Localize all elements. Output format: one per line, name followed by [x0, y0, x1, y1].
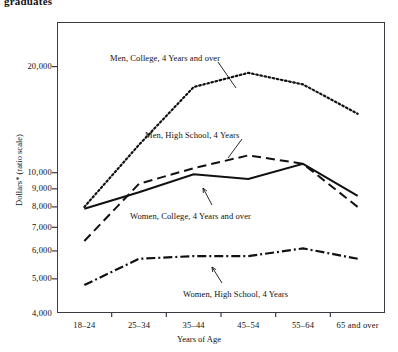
series-annotation-label: Men, High School, 4 Years	[145, 130, 239, 140]
annotation-leader-line	[228, 139, 242, 158]
series-line	[84, 155, 357, 241]
y-tick-label: 7,000	[0, 222, 52, 232]
annotation-leader-line	[212, 267, 222, 283]
x-axis-title: Years of Age	[0, 334, 398, 344]
series-line	[84, 248, 357, 285]
y-tick-label: 5,000	[0, 273, 52, 283]
y-axis-title: Dollars* (ratio scale)	[14, 110, 24, 230]
annotation-leader-line	[218, 62, 236, 88]
series-annotation-label: Men, College, 4 Years and over	[110, 53, 220, 63]
series-line	[84, 164, 357, 209]
y-tick-label: 9,000	[0, 183, 52, 193]
annotation-leader-line	[203, 188, 212, 205]
y-tick-label: 10,000	[0, 167, 52, 177]
axis-ticks	[52, 67, 330, 317]
y-tick-label: 6,000	[0, 245, 52, 255]
y-tick-label: 4,000	[0, 308, 52, 318]
series-lines	[84, 73, 357, 285]
series-annotation-label: Women, College, 4 Years and over	[130, 211, 251, 221]
y-tick-label: 8,000	[0, 201, 52, 211]
y-tick-label: 20,000	[0, 61, 52, 71]
chart-figure: graduates 20,00010,0009,0008,0007,0006,0…	[0, 0, 398, 352]
annotation-leaders	[203, 62, 242, 283]
x-tick-label: 65 and over	[323, 320, 393, 330]
series-annotation-label: Women, High School, 4 Years	[183, 289, 288, 299]
